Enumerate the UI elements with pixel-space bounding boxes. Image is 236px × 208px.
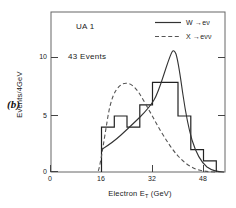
curve-x-to-enunu (98, 83, 216, 172)
axes-frame (51, 12, 225, 172)
plot-canvas (0, 0, 236, 208)
legend-sample-lines (155, 23, 181, 37)
curve-w-to-enu (102, 51, 225, 172)
y-axis-ticks (51, 58, 225, 172)
figure-panel: (b) Events/4GeV Electron ET (GeV) 0 16 3… (0, 0, 236, 208)
x-axis-ticks (51, 165, 204, 172)
